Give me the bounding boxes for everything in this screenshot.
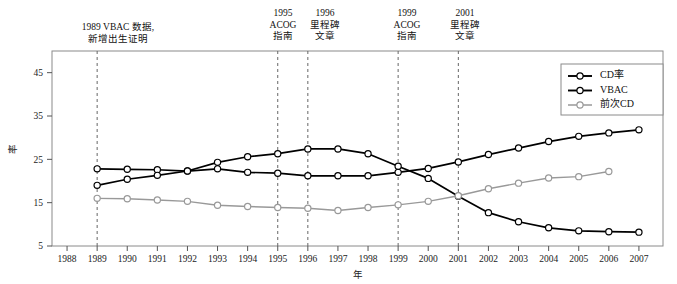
legend-label: CD率 [600,68,624,80]
data-point [335,173,341,179]
chart-figure: 515253545 198819891990199119921993199419… [0,0,677,284]
anno-1995-label: 1995ACOG指南 [270,8,297,41]
x-tick-label-2005: 2005 [569,254,588,264]
data-point [124,196,130,202]
x-tick-label-2001: 2001 [449,254,468,264]
annotation-labels: 1989 VBAC 数据,新增出生证明1995ACOG指南1996里程碑文章19… [82,8,480,44]
x-tick-label-1992: 1992 [178,254,197,264]
data-point [245,169,251,175]
data-point [455,159,461,165]
chart-legend: CD率VBAC前次CD [561,64,663,115]
x-tick-label-1994: 1994 [238,254,257,264]
y-axis-title: 率 [7,144,18,154]
data-point [94,195,100,201]
data-point [546,225,552,231]
data-point [425,198,431,204]
x-tick-label-1989: 1989 [88,254,107,264]
data-point [606,168,612,174]
annotation-line-text: 文章 [455,30,475,41]
x-tick-label-1991: 1991 [148,254,167,264]
data-point [275,151,281,157]
data-point [94,166,100,172]
data-point [154,172,160,178]
data-point [606,130,612,136]
x-tick-label-2003: 2003 [509,254,528,264]
x-axis-title: 年 [353,269,363,280]
data-point [305,173,311,179]
annotation-line-text: 新增出生证明 [88,33,148,44]
annotation-line-text: 1995 [274,8,293,18]
annotation-line-text: ACOG [270,20,297,30]
x-tick-label-2000: 2000 [419,254,438,264]
x-tick-label-1990: 1990 [118,254,137,264]
y-tick-label-35: 35 [34,111,44,121]
data-point [124,166,130,172]
data-point [154,197,160,203]
annotation-line-text: 指南 [397,30,417,41]
data-point [184,168,190,174]
legend-label: 前次CD [600,97,634,109]
data-point [214,202,220,208]
data-point [636,127,642,133]
data-point [245,154,251,160]
anno-1989-label: 1989 VBAC 数据,新增出生证明 [82,21,154,44]
data-point [546,138,552,144]
data-point [485,186,491,192]
x-tick-label-1993: 1993 [208,254,227,264]
data-point [515,145,521,151]
anno-1996-label: 1996里程碑文章 [310,8,340,41]
anno-1999-label: 1999ACOG指南 [394,8,421,41]
series-layer [94,127,642,235]
data-point [515,180,521,186]
data-point [576,174,582,180]
y-tick-label-45: 45 [34,68,44,78]
data-point [124,176,130,182]
data-point [395,202,401,208]
x-tick-label-2002: 2002 [479,254,498,264]
series-2 [94,146,642,235]
data-point [365,151,371,157]
data-point [576,133,582,139]
x-tick-label-1995: 1995 [268,254,287,264]
x-axis: 1988198919901991199219931994199519961997… [58,246,649,264]
data-point [214,159,220,165]
data-point [485,210,491,216]
annotation-line-text: 里程碑 [310,19,340,30]
x-tick-label-2004: 2004 [539,254,558,264]
y-tick-label-25: 25 [34,155,44,165]
data-point [546,175,552,181]
x-tick-label-1997: 1997 [328,254,347,264]
data-point [425,165,431,171]
data-point [365,173,371,179]
line-chart: 515253545 198819891990199119921993199419… [0,0,677,284]
data-point [576,228,582,234]
annotation-line-text: 2001 [456,8,475,18]
data-point [455,193,461,199]
data-point [214,166,220,172]
anno-2001-label: 2001里程碑文章 [450,8,480,41]
legend-swatch-marker [577,73,583,79]
annotation-line-text: 里程碑 [450,19,480,30]
legend-swatch-marker [577,87,583,93]
series-line [97,149,639,232]
data-point [365,204,371,210]
y-tick-label-5: 5 [38,241,43,251]
annotation-line-text: 1989 VBAC 数据, [82,21,154,32]
series-line [97,171,609,210]
data-point [395,169,401,175]
x-tick-label-2007: 2007 [629,254,648,264]
data-point [275,170,281,176]
y-axis: 515253545 [34,68,53,251]
data-point [245,203,251,209]
data-point [94,182,100,188]
annotation-line-text: ACOG [394,20,421,30]
annotation-line-text: 1999 [398,8,417,18]
annotation-line-text: 文章 [315,30,335,41]
annotation-guide-lines [97,51,458,246]
x-tick-label-1998: 1998 [359,254,378,264]
legend-label: VBAC [600,84,628,95]
data-point [515,219,521,225]
data-point [606,229,612,235]
x-tick-label-1988: 1988 [58,254,77,264]
annotation-line-text: 指南 [273,30,293,41]
